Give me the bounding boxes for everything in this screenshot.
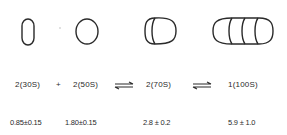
term-100s: 1(100S) (228, 80, 258, 89)
equilibrium-arrow-icon (192, 81, 212, 90)
particle-100s-icon (213, 18, 273, 44)
separator-dot (59, 27, 61, 29)
term-30s: 2(30S) (15, 80, 40, 89)
equilibrium-arrow-icon (114, 81, 134, 90)
value-100s: 5.9 ± 1.0 (228, 118, 255, 127)
term-70s: 2(70S) (146, 80, 171, 89)
particle-30s-icon (22, 19, 34, 45)
particle-50s-icon (76, 19, 98, 44)
value-50s: 1.80±0.15 (65, 118, 97, 127)
plus-sign: + (56, 80, 61, 89)
particle-shapes (0, 0, 287, 60)
particle-70s-icon (145, 18, 176, 44)
value-70s: 2.8 ± 0.2 (143, 118, 170, 127)
term-50s: 2(50S) (73, 80, 98, 89)
value-30s: 0.85±0.15 (10, 118, 42, 127)
